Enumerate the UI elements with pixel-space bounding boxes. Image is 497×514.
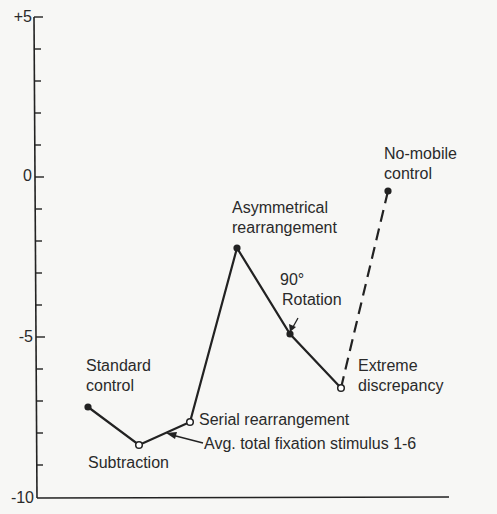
point-serial-rearrangement <box>187 419 194 426</box>
point-subtraction <box>136 442 143 449</box>
point-asymmetrical-rearrangement <box>233 244 240 251</box>
label-serial-rearrangement: Serial rearrangement <box>199 410 349 429</box>
label-no-mobile-control-line2: control <box>384 164 432 183</box>
y-axis <box>34 17 37 498</box>
label-avg-total-fixation: Avg. total fixation stimulus 1-6 <box>204 434 416 453</box>
label-standard-control-line1: Standard <box>86 356 151 375</box>
point-no-mobile-control <box>384 187 391 194</box>
y-tick-label: +5 <box>0 8 32 26</box>
label-90-rotation-line2: Rotation <box>282 290 342 309</box>
label-extreme-discrepancy-line1: Extreme <box>358 356 418 375</box>
point-standard-control <box>84 403 91 410</box>
y-tick-label: 0 <box>0 167 32 185</box>
rotation-arrow-head <box>289 324 296 332</box>
label-90-rotation-line1: 90° <box>280 270 304 289</box>
label-no-mobile-control-line1: No-mobile <box>384 144 457 163</box>
label-extreme-discrepancy-line2: discrepancy <box>358 376 443 395</box>
avg-arrow-head <box>166 432 177 439</box>
rotation-arrow-line <box>293 318 298 327</box>
label-asymmetrical-line1: Asymmetrical <box>232 198 328 217</box>
label-subtraction: Subtraction <box>88 453 169 472</box>
y-tick-label: -5 <box>1 328 33 346</box>
y-tick-label: -10 <box>2 489 34 507</box>
avg-arrow-line <box>172 435 203 443</box>
label-asymmetrical-line2: rearrangement <box>232 218 337 237</box>
label-standard-control-line2: control <box>86 376 134 395</box>
point-extreme-discrepancy <box>338 385 345 392</box>
x-axis <box>37 497 449 498</box>
